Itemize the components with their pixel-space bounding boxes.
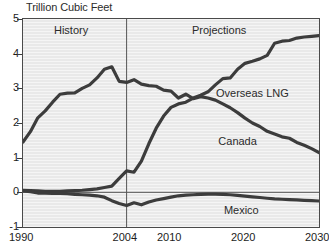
chart-annotation-projections: Projections [192, 24, 246, 36]
plot-svg [23, 19, 319, 227]
x-tick-label: 2004 [113, 231, 137, 243]
x-tick-label: 1990 [9, 231, 33, 243]
y-tick-mark [17, 192, 22, 193]
x-tick-label: 2010 [157, 231, 181, 243]
chart-title: Trillion Cubic Feet [26, 1, 112, 13]
series-line-overseas-lng [23, 36, 319, 192]
chart-screenshot: Trillion Cubic Feet 543210-1 19902004201… [0, 0, 329, 250]
chart-annotation-overseas-lng: Overseas LNG [216, 87, 289, 99]
y-tick-mark [17, 54, 22, 55]
y-tick-mark [17, 158, 22, 159]
x-tick-label: 2020 [231, 231, 255, 243]
y-tick-mark [17, 227, 22, 228]
chart-annotation-canada: Canada [218, 135, 257, 147]
chart-annotation-mexico: Mexico [224, 204, 259, 216]
y-tick-mark [17, 88, 22, 89]
y-tick-mark [17, 123, 22, 124]
y-axis: 543210-1 [0, 0, 19, 250]
chart-annotation-history: History [54, 24, 88, 36]
x-tick-label: 2030 [305, 231, 329, 243]
y-tick-mark [17, 19, 22, 20]
plot-area [22, 18, 320, 228]
series-line-mexico [23, 191, 319, 206]
